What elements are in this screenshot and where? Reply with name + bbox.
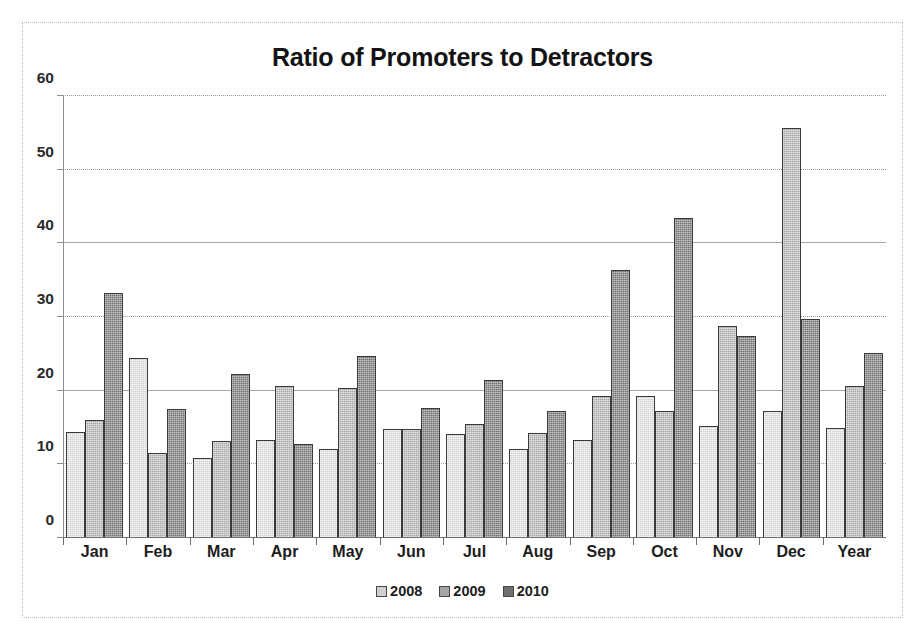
bar-group (126, 96, 189, 538)
bar[interactable] (718, 326, 737, 538)
x-axis-line (63, 537, 886, 538)
bar[interactable] (826, 428, 845, 539)
bar[interactable] (212, 441, 231, 538)
x-axis-tick-label: Oct (633, 543, 696, 561)
bar-group (253, 96, 316, 538)
bar[interactable] (611, 270, 630, 538)
x-axis-tick-label: Feb (126, 543, 189, 561)
y-axis-tick-label: 0 (45, 511, 54, 529)
bar[interactable] (167, 409, 186, 538)
x-axis-tick-label: Aug (506, 543, 569, 561)
chart-title: Ratio of Promoters to Detractors (23, 43, 902, 72)
x-axis-tick-label: Jul (443, 543, 506, 561)
bar[interactable] (256, 440, 275, 538)
bar[interactable] (104, 293, 123, 538)
bar[interactable] (402, 429, 421, 538)
x-axis-tick-label: Dec (759, 543, 822, 561)
x-axis-tick-label: Jun (380, 543, 443, 561)
legend-item[interactable]: 2008 (376, 583, 422, 599)
bar[interactable] (338, 388, 357, 538)
bar-group (190, 96, 253, 538)
bar[interactable] (763, 411, 782, 538)
y-axis-tick-label: 40 (37, 216, 54, 234)
bar[interactable] (547, 411, 566, 538)
bar[interactable] (66, 432, 85, 538)
bar[interactable] (421, 408, 440, 538)
bar[interactable] (231, 374, 250, 538)
legend-label: 2009 (453, 583, 485, 599)
y-axis-tick-label: 60 (37, 69, 54, 87)
y-axis-tick-label: 50 (37, 143, 54, 161)
bar[interactable] (275, 386, 294, 538)
bar-group (570, 96, 633, 538)
legend-swatch-icon (376, 586, 387, 597)
bar[interactable] (801, 319, 820, 538)
bar-groups (63, 96, 886, 538)
y-axis-tick-label: 30 (37, 290, 54, 308)
x-axis-tick-label: May (316, 543, 379, 561)
x-axis-tick-label: Year (823, 543, 886, 561)
legend-label: 2010 (517, 583, 549, 599)
legend-swatch-icon (439, 586, 450, 597)
bar[interactable] (357, 356, 376, 538)
bar-group (823, 96, 886, 538)
chart-legend: 200820092010 (23, 583, 902, 599)
bar[interactable] (592, 396, 611, 538)
bar[interactable] (319, 449, 338, 538)
legend-label: 2008 (390, 583, 422, 599)
bar[interactable] (294, 444, 313, 538)
bar[interactable] (737, 336, 756, 538)
bar[interactable] (129, 358, 148, 538)
chart-frame: Ratio of Promoters to Detractors 0102030… (22, 22, 903, 618)
bar[interactable] (845, 386, 864, 538)
bar[interactable] (782, 128, 801, 538)
bar-group (316, 96, 379, 538)
bar-group (443, 96, 506, 538)
x-axis-tick-label: Jan (63, 543, 126, 561)
x-axis-tick-label: Nov (696, 543, 759, 561)
x-axis-tick-label: Mar (190, 543, 253, 561)
y-axis-tick-label: 10 (37, 437, 54, 455)
bar-group (633, 96, 696, 538)
bar-group (696, 96, 759, 538)
bar[interactable] (193, 458, 212, 538)
bar[interactable] (148, 453, 167, 538)
bar[interactable] (484, 380, 503, 538)
bar-group (380, 96, 443, 538)
legend-item[interactable]: 2010 (503, 583, 549, 599)
bar[interactable] (655, 411, 674, 538)
legend-item[interactable]: 2009 (439, 583, 485, 599)
bar[interactable] (383, 429, 402, 538)
bar[interactable] (85, 420, 104, 538)
x-axis-tick-labels: JanFebMarAprMayJunJulAugSepOctNovDecYear (63, 543, 886, 561)
bar[interactable] (636, 396, 655, 538)
bar[interactable] (699, 426, 718, 538)
bar-group (759, 96, 822, 538)
bar[interactable] (528, 433, 547, 538)
bar[interactable] (465, 424, 484, 538)
plot-area: 0102030405060 (63, 96, 886, 538)
x-axis-tick-label: Apr (253, 543, 316, 561)
legend-swatch-icon (503, 586, 514, 597)
bar-group (506, 96, 569, 538)
x-axis-tick-label: Sep (570, 543, 633, 561)
y-axis-tick-label: 20 (37, 364, 54, 382)
bar[interactable] (509, 449, 528, 538)
bar[interactable] (446, 434, 465, 538)
bar-group (63, 96, 126, 538)
bar[interactable] (674, 218, 693, 538)
bar[interactable] (573, 440, 592, 538)
bar[interactable] (864, 353, 883, 538)
